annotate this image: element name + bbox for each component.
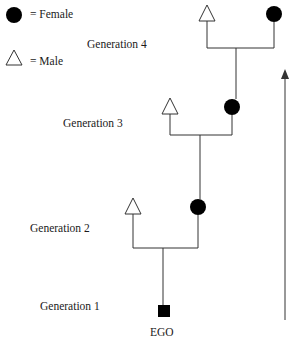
ego-label: EGO xyxy=(150,327,174,339)
generation-1-label: Generation 1 xyxy=(40,301,100,313)
legend-male-label: = Male xyxy=(30,56,63,68)
gen3-female-circle-icon xyxy=(224,99,240,115)
generation-3-label: Generation 3 xyxy=(63,118,123,130)
gen4-female-circle-icon xyxy=(266,6,282,22)
kinship-diagram xyxy=(0,0,291,343)
legend-female-circle-icon xyxy=(6,7,22,23)
arrow-up-icon xyxy=(281,69,289,79)
generation-4-label: Generation 4 xyxy=(87,39,147,51)
ego-square-icon xyxy=(158,305,170,317)
legend-male-triangle-icon xyxy=(6,50,22,65)
gen2-male-triangle-icon xyxy=(125,198,141,214)
generation-2-label: Generation 2 xyxy=(30,223,90,235)
gen2-female-circle-icon xyxy=(190,199,206,215)
gen3-male-triangle-icon xyxy=(162,98,178,114)
gen2-marriage-line xyxy=(133,214,198,248)
legend-female-label: = Female xyxy=(30,9,73,21)
gen4-male-triangle-icon xyxy=(199,5,215,21)
gen3-marriage-line xyxy=(170,114,232,135)
gen4-marriage-line xyxy=(207,21,274,48)
